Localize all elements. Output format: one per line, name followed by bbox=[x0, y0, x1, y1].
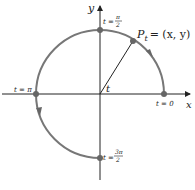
y-axis-label: y bbox=[87, 2, 95, 15]
label-tpi2-num: π bbox=[115, 13, 121, 20]
point-tpi2 bbox=[97, 27, 103, 33]
point-label: Pt= (x, y) bbox=[136, 28, 190, 43]
radius-line bbox=[100, 41, 133, 94]
label-tpi2-den: 2 bbox=[115, 21, 120, 28]
label-t0: t = 0 bbox=[156, 100, 174, 108]
label-t3pi2-den: 2 bbox=[115, 156, 120, 163]
point-t0 bbox=[161, 91, 167, 97]
label-t3pi2-num: 3π bbox=[115, 148, 124, 155]
unit-circle-diagram: y x Pt= (x, y) t t = π 2 t = π t = 0 t =… bbox=[0, 0, 195, 190]
point-tpi bbox=[33, 91, 39, 97]
label-tpi: t = π bbox=[14, 86, 32, 94]
angle-label: t bbox=[106, 83, 111, 94]
label-tpi2-prefix: t = bbox=[103, 18, 114, 26]
x-axis-label: x bbox=[186, 99, 192, 110]
label-t3pi2-prefix: t = bbox=[103, 154, 114, 162]
point-pt bbox=[130, 38, 136, 44]
